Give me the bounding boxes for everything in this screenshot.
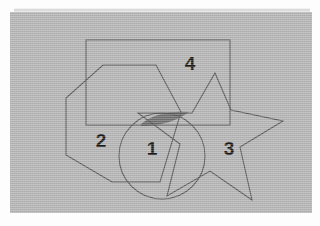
shape-label-4: 4 bbox=[185, 53, 196, 74]
figure-root: 1 2 3 4 bbox=[0, 0, 320, 226]
shape-label-1: 1 bbox=[147, 138, 158, 159]
shape-label-3: 3 bbox=[224, 138, 235, 159]
shape-label-2: 2 bbox=[96, 130, 107, 151]
overlapping-shapes-svg: 1 2 3 4 bbox=[0, 0, 320, 226]
